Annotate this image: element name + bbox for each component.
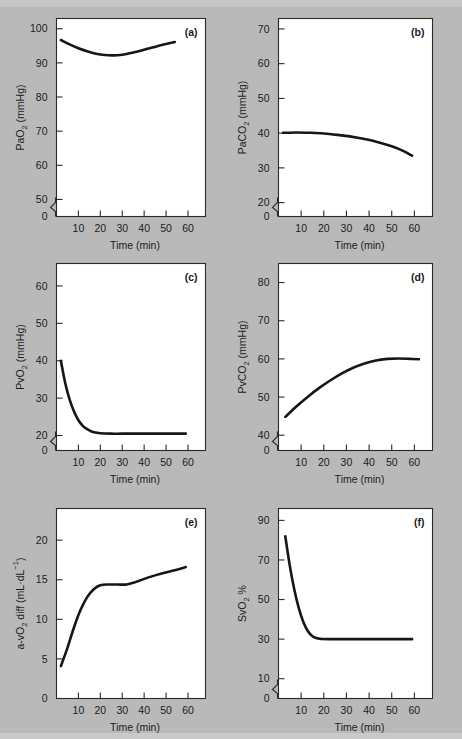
x-tick-label: 10	[295, 704, 307, 716]
x-tick-label: 30	[116, 222, 128, 234]
page-bottom-edge	[0, 733, 462, 739]
x-axis-title: Time (min)	[110, 239, 160, 251]
x-tick-label: 50	[386, 222, 398, 234]
figure-panel-grid: 50607080901001020304050600(a)Time (min)P…	[0, 0, 462, 739]
y-axis-break-icon	[273, 432, 278, 451]
y-tick-label: 50	[258, 92, 270, 104]
panel-d: 40506070801020304050600(d)Time (min)PvCO…	[236, 264, 433, 485]
y-tick-label: 40	[258, 127, 270, 139]
y-tick-label: 10	[258, 672, 270, 684]
panel-label: (c)	[185, 271, 198, 283]
x-tick-label: 10	[73, 222, 85, 234]
plot-area-background	[279, 509, 433, 699]
y-axis-break-icon	[51, 198, 56, 217]
y-tick-label: 50	[36, 193, 48, 205]
y-zero-label: 0	[264, 444, 270, 456]
plot-area-background	[57, 509, 206, 699]
x-tick-label: 60	[409, 222, 421, 234]
x-axis-title: Time (min)	[335, 473, 385, 485]
x-axis-title: Time (min)	[110, 721, 160, 733]
x-tick-label: 40	[138, 222, 150, 234]
x-axis-title: Time (min)	[335, 239, 385, 251]
x-tick-label: 50	[386, 456, 398, 468]
page-top-edge	[0, 0, 462, 7]
y-axis-title: PvCO2 (mmHg)	[236, 320, 251, 393]
x-tick-label: 30	[341, 456, 353, 468]
y-zero-label: 0	[42, 692, 48, 704]
y-tick-label: 15	[36, 573, 48, 585]
y-zero-label: 0	[264, 692, 270, 704]
y-axis-break-icon	[273, 198, 278, 217]
x-tick-label: 20	[318, 222, 330, 234]
y-zero-label: 0	[42, 444, 48, 456]
x-tick-label: 60	[409, 704, 421, 716]
y-tick-label: 80	[36, 91, 48, 103]
y-tick-label: 70	[36, 125, 48, 137]
x-tick-label: 60	[182, 456, 194, 468]
x-tick-label: 20	[94, 222, 106, 234]
y-axis-title: PaO2 (mmHg)	[14, 84, 29, 150]
y-tick-label: 100	[30, 22, 48, 34]
x-tick-label: 40	[363, 704, 375, 716]
x-tick-label: 50	[160, 222, 172, 234]
panel-label: (d)	[411, 271, 424, 283]
x-tick-label: 10	[73, 456, 85, 468]
y-tick-label: 20	[36, 534, 48, 546]
y-tick-label: 5	[42, 653, 48, 665]
x-tick-label: 30	[341, 222, 353, 234]
x-tick-label: 20	[318, 704, 330, 716]
x-tick-label: 50	[160, 456, 172, 468]
y-zero-label: 0	[264, 210, 270, 222]
y-tick-label: 20	[258, 196, 270, 208]
x-tick-label: 30	[116, 704, 128, 716]
y-axis-title: a-vO2 diff (mL·dL−1)	[11, 557, 29, 649]
y-tick-label: 60	[258, 57, 270, 69]
y-zero-label: 0	[42, 210, 48, 222]
y-tick-label: 30	[258, 162, 270, 174]
y-tick-label: 60	[36, 159, 48, 171]
y-axis-title: PvO2 (mmHg)	[14, 324, 29, 389]
y-axis-title: PaCO2 (mmHg)	[236, 81, 251, 155]
x-tick-label: 50	[160, 704, 172, 716]
panel-label: (a)	[185, 26, 198, 38]
x-axis-title: Time (min)	[335, 721, 385, 733]
x-tick-label: 30	[341, 704, 353, 716]
y-axis-break-icon	[273, 680, 278, 699]
plot-area-background	[279, 264, 433, 451]
x-tick-label: 40	[138, 456, 150, 468]
panel-b: 2030405060701020304050600(b)Time (min)Pa…	[236, 19, 433, 251]
x-tick-label: 20	[318, 456, 330, 468]
panel-label: (b)	[411, 26, 424, 38]
x-tick-label: 60	[409, 456, 421, 468]
x-tick-label: 50	[386, 704, 398, 716]
y-tick-label: 60	[36, 280, 48, 292]
x-tick-label: 60	[182, 704, 194, 716]
y-tick-label: 70	[258, 314, 270, 326]
y-tick-label: 40	[36, 354, 48, 366]
multi-panel-chart-svg: 50607080901001020304050600(a)Time (min)P…	[0, 0, 462, 739]
y-tick-label: 20	[36, 429, 48, 441]
panel-a: 50607080901001020304050600(a)Time (min)P…	[14, 19, 206, 251]
x-axis-title: Time (min)	[110, 473, 160, 485]
y-tick-label: 40	[258, 429, 270, 441]
x-tick-label: 30	[116, 456, 128, 468]
x-tick-label: 20	[94, 704, 106, 716]
x-tick-label: 10	[295, 456, 307, 468]
y-tick-label: 10	[36, 613, 48, 625]
y-tick-label: 90	[258, 514, 270, 526]
x-tick-label: 10	[73, 704, 85, 716]
x-tick-label: 10	[295, 222, 307, 234]
x-tick-label: 40	[363, 222, 375, 234]
x-tick-label: 40	[363, 456, 375, 468]
y-tick-label: 90	[36, 57, 48, 69]
panel-e: 51015201020304050600(e)Time (min)a-vO2 d…	[11, 509, 206, 733]
y-tick-label: 70	[258, 554, 270, 566]
y-axis-title: SvO2 %	[236, 585, 251, 622]
y-tick-label: 50	[258, 593, 270, 605]
panel-label: (f)	[414, 516, 425, 528]
y-tick-label: 50	[36, 317, 48, 329]
plot-area-background	[279, 19, 433, 217]
panel-c: 20304050601020304050600(c)Time (min)PvO2…	[14, 264, 206, 485]
y-tick-label: 50	[258, 391, 270, 403]
y-tick-label: 60	[258, 353, 270, 365]
